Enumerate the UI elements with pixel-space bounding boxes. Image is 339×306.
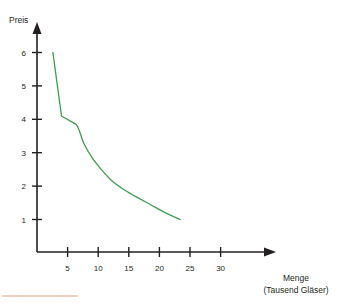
y-tick-label-4: 4: [22, 115, 27, 124]
x-axis-title: Menge: [283, 273, 309, 283]
x-tick-label-10: 10: [94, 264, 103, 273]
x-tick-label-30: 30: [216, 264, 225, 273]
chart-container: 1 2 3 4 5 6 5 10 15 20 25 30 Preis Menge…: [0, 0, 339, 306]
x-tick-label-15: 15: [124, 264, 133, 273]
x-axis-arrow-icon: [264, 248, 276, 257]
y-tick-label-5: 5: [22, 82, 27, 91]
y-tick-label-2: 2: [22, 182, 27, 191]
x-axis-subtitle: (Tausend Gläser): [263, 285, 328, 295]
y-tick-label-6: 6: [22, 49, 27, 58]
x-tick-label-25: 25: [186, 264, 195, 273]
x-tick-label-20: 20: [155, 264, 164, 273]
y-tick-label-3: 3: [22, 149, 27, 158]
x-tick-label-5: 5: [65, 264, 70, 273]
y-axis-arrow-icon: [33, 22, 42, 34]
y-axis-title: Preis: [9, 15, 28, 25]
demand-curve-line: [53, 53, 180, 220]
y-tick-label-1: 1: [22, 216, 27, 225]
demand-curve-chart: 1 2 3 4 5 6 5 10 15 20 25 30 Preis Menge…: [0, 0, 339, 306]
